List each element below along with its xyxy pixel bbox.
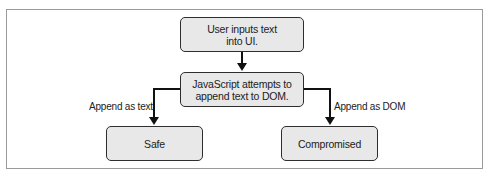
- node-js-append-label: JavaScript attempts to append text to DO…: [192, 78, 291, 102]
- node-js-append: JavaScript attempts to append text to DO…: [180, 72, 304, 107]
- node-user-input-label: User inputs text into UI.: [207, 23, 277, 47]
- node-safe-label: Safe: [144, 138, 165, 150]
- node-compromised: Compromised: [281, 126, 378, 161]
- node-compromised-label: Compromised: [298, 138, 361, 150]
- edge-label-append-as-text: Append as text: [89, 101, 153, 112]
- edge-label-append-as-dom: Append as DOM: [334, 101, 405, 112]
- node-user-input: User inputs text into UI.: [180, 17, 304, 52]
- node-safe: Safe: [106, 126, 203, 161]
